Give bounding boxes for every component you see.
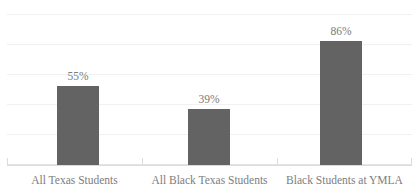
bar-all-black-texas-students[interactable] <box>188 109 230 165</box>
bar-value-all-black-texas-students: 39% <box>178 93 240 106</box>
axis-tick-0 <box>7 158 8 166</box>
chart-title: Assessment <box>0 0 419 3</box>
bar-black-students-at-ymla[interactable] <box>320 41 362 165</box>
category-axis-line <box>7 165 412 166</box>
bars-layer: 55% 39% 86% <box>0 14 419 165</box>
category-label-all-black-texas-students: All Black Texas Students <box>142 170 277 192</box>
category-axis-labels: All Texas Students All Black Texas Stude… <box>7 170 412 192</box>
axis-tick-1 <box>142 158 143 166</box>
category-label-all-texas-students: All Texas Students <box>7 170 142 192</box>
bar-all-texas-students[interactable] <box>57 86 99 165</box>
bar-value-black-students-at-ymla: 86% <box>310 25 372 38</box>
bar-chart: Assessment 55% 39% 86% All Texas Student… <box>0 0 419 196</box>
bar-value-all-texas-students: 55% <box>47 70 109 83</box>
category-label-black-students-at-ymla: Black Students at YMLA <box>277 170 412 192</box>
axis-tick-3 <box>411 158 412 166</box>
axis-tick-2 <box>277 158 278 166</box>
